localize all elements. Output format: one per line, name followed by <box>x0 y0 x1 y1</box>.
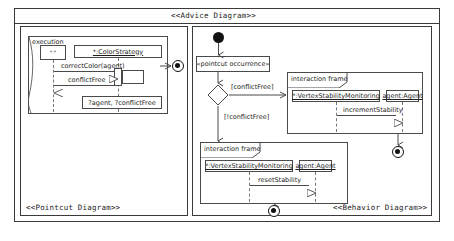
message-line-correct-color <box>54 71 114 72</box>
message-arrowhead-increment-stability <box>394 112 404 131</box>
vsm-lifeline-head-lower[interactable]: *:VertexStabilityMonitoring <box>205 160 293 172</box>
behavior-diagram-title: <<Behavior Diagram>> <box>333 203 427 212</box>
message-arrowhead-reset-stability <box>307 182 317 201</box>
colorstrategy-activation-tail <box>122 70 144 84</box>
advice-diagram-title: <<Advice Diagram>> <box>171 11 256 20</box>
vsm-lifeline-lower <box>249 172 250 202</box>
decision-diamond-node[interactable] <box>207 84 229 106</box>
initial-node <box>213 32 224 43</box>
behavior-activity-final-node-lower <box>268 205 280 217</box>
vsm-lifeline-head-upper[interactable]: *:VertexStabilityMonitoring <box>292 90 380 102</box>
agent-lifeline-head-lower[interactable]: agent:Agent <box>299 160 332 172</box>
guard-label-conflict-free: [conflictFree] <box>231 83 274 91</box>
message-label-reset-stability: resetStability <box>258 176 301 184</box>
message-arrowhead-conflict-free <box>54 82 64 101</box>
interaction-frame-lower-tag: interaction frame <box>204 145 261 153</box>
message-label-conflict-free: conflictFree <box>68 76 106 84</box>
pointcut-occurrence-action[interactable]: «pointcut occurrence» <box>196 56 270 72</box>
anon-lifeline-label: *:* <box>50 50 57 55</box>
pointcut-diagram-title: <<Pointcut Diagram>> <box>26 203 120 212</box>
message-line-reset-stability <box>250 185 309 186</box>
behavior-activity-final-node-upper <box>392 146 404 158</box>
vsm-lifeline-upper <box>336 102 337 132</box>
interaction-frame-upper-tag: interaction frame <box>291 75 348 83</box>
pointcut-activity-final-node <box>172 60 184 72</box>
guard-label-not-conflict-free: [!conflictFree] <box>224 113 269 121</box>
binding-parameters-note: ?agent, ?conflictFree <box>82 96 162 109</box>
anon-lifeline-head[interactable]: *:* <box>40 45 66 60</box>
uml-advice-diagram-canvas: <<Advice Diagram>> <<Pointcut Diagram>> … <box>0 0 454 241</box>
message-line-increment-stability <box>337 115 396 116</box>
colorstrategy-lifeline-head[interactable]: *:ColorStrategy <box>74 45 162 58</box>
agent-lifeline-head-upper[interactable]: agent:Agent <box>386 90 419 102</box>
